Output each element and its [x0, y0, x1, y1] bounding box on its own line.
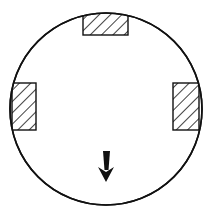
diagram-canvas [0, 0, 212, 214]
right-hatched-block [173, 83, 199, 130]
left-hatched-block [12, 83, 36, 130]
